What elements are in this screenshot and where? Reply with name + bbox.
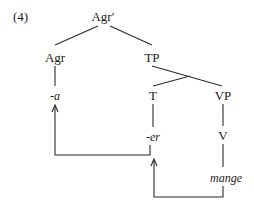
node-verb: mange <box>210 171 243 185</box>
node-agr: Agr <box>45 50 66 65</box>
node-vp: VP <box>215 88 232 103</box>
edge-tp-t <box>153 76 190 86</box>
edge-agrbar-tp <box>110 26 152 45</box>
node-agr-morpheme: -a <box>50 89 60 103</box>
example-number: (4) <box>13 9 28 24</box>
node-v: V <box>218 128 228 143</box>
node-t: T <box>149 88 157 103</box>
syntax-tree: (4) Agr′ Agr TP -a T VP -er V mange <box>0 0 254 210</box>
node-t-morpheme: -er <box>146 130 160 144</box>
edge-agrbar-agr <box>55 26 98 45</box>
node-agr-bar: Agr′ <box>91 9 114 24</box>
node-tp: TP <box>144 50 159 65</box>
movement-arrow-t-to-agr <box>52 105 150 155</box>
